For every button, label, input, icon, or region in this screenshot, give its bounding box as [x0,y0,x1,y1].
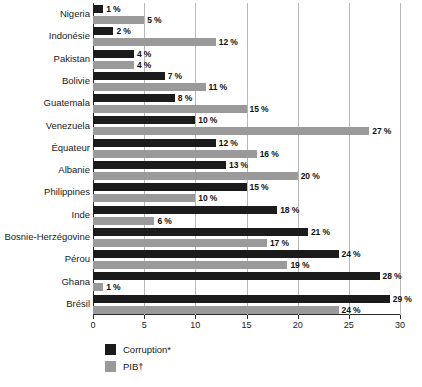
bar-group: 24 %19 % [93,249,400,271]
category-label: Ghana [2,276,90,287]
legend-label: Corruption* [123,344,171,355]
legend-swatch-corruption [105,344,116,355]
bar-corruption [93,5,103,13]
bar-group: 28 %1 % [93,271,400,293]
category-label: Indonésie [2,30,90,41]
category-label: Inde [2,209,90,220]
legend-item[interactable]: PIB† [105,358,171,375]
bar-group: 7 %11 % [93,71,400,93]
bar-value-label: 28 % [383,272,402,280]
bar-corruption [93,139,216,147]
bar-value-label: 15 % [250,105,269,113]
bar-value-label: 4 % [137,61,151,69]
bar-value-label: 2 % [116,27,130,35]
bar-value-label: 1 % [106,5,120,13]
bar-corruption [93,295,390,303]
category-label: Bosnie-Herzégovine [2,231,90,242]
x-tick-mark [247,315,248,319]
x-tick-mark [349,315,350,319]
category-label: Pérou [2,253,90,264]
bar-pib [93,16,144,24]
bar-corruption [93,116,195,124]
x-tick-label: 30 [395,320,405,330]
x-tick-mark [195,315,196,319]
bar-group: 1 %5 % [93,4,400,26]
bar-corruption [93,250,339,258]
x-tick-label: 25 [344,320,354,330]
bar-group: 15 %10 % [93,182,400,204]
bar-group: 12 %16 % [93,138,400,160]
bar-value-label: 4 % [137,50,151,58]
category-label: Philippines [2,186,90,197]
bar-value-label: 10 % [198,194,217,202]
bar-group: 18 %6 % [93,205,400,227]
plot-area: 1 %5 %2 %12 %4 %4 %7 %11 %8 %15 %10 %27 … [93,3,400,315]
bar-pib [93,83,206,91]
x-tick-mark [144,315,145,319]
legend-item[interactable]: Corruption* [105,341,171,358]
bar-value-label: 29 % [393,295,412,303]
bar-group: 29 %24 % [93,294,400,316]
bar-pib [93,38,216,46]
bar-corruption [93,161,226,169]
category-axis-labels: NigeriaIndonésiePakistanBolivieGuatemala… [0,3,90,315]
x-tick-mark [400,315,401,319]
bar-corruption [93,183,247,191]
x-tick-mark [93,315,94,319]
bar-pib [93,239,267,247]
bar-group: 13 %20 % [93,160,400,182]
bar-pib [93,127,369,135]
bar-value-label: 6 % [157,217,171,225]
bar-value-label: 19 % [290,261,309,269]
bar-group: 4 %4 % [93,49,400,71]
bar-pib [93,172,298,180]
bar-value-label: 13 % [229,161,248,169]
bar-value-label: 12 % [219,139,238,147]
x-tick-label: 10 [190,320,200,330]
category-label: Venezuela [2,120,90,131]
bar-corruption [93,27,113,35]
category-label: Guatemala [2,97,90,108]
bar-corruption [93,272,380,280]
bar-value-label: 16 % [260,150,279,158]
legend-swatch-pib [105,361,116,372]
bar-group: 2 %12 % [93,26,400,48]
bar-pib [93,261,287,269]
category-label: Bolivie [2,75,90,86]
bar-pib [93,194,195,202]
x-tick-label: 5 [142,320,147,330]
gridline [400,3,401,315]
bar-corruption [93,228,308,236]
bar-chart: NigeriaIndonésiePakistanBolivieGuatemala… [0,0,422,387]
bar-value-label: 1 % [106,283,120,291]
bar-value-label: 7 % [168,72,182,80]
category-label: Nigeria [2,8,90,19]
chart-legend: Corruption*PIB† [105,341,171,375]
bar-pib [93,61,134,69]
legend-label: PIB† [123,361,144,372]
bar-corruption [93,72,165,80]
category-label: Brésil [2,298,90,309]
bar-value-label: 11 % [209,83,228,91]
bar-pib [93,283,103,291]
bar-value-label: 20 % [301,172,320,180]
bar-corruption [93,94,175,102]
category-label: Pakistan [2,53,90,64]
bar-value-label: 8 % [178,94,192,102]
bar-value-label: 17 % [270,239,289,247]
x-tick-label: 20 [293,320,303,330]
category-label: Albanie [2,164,90,175]
x-tick-mark [298,315,299,319]
category-label: Équateur [2,142,90,153]
bar-pib [93,150,257,158]
bar-pib [93,217,154,225]
bar-value-label: 24 % [342,250,361,258]
bar-value-label: 27 % [372,127,391,135]
bar-group: 8 %15 % [93,93,400,115]
bar-pib [93,306,339,314]
x-axis: 051015202530 [93,315,400,331]
bar-corruption [93,206,277,214]
bar-value-label: 24 % [342,306,361,314]
bar-value-label: 15 % [250,183,269,191]
bar-value-label: 5 % [147,16,161,24]
